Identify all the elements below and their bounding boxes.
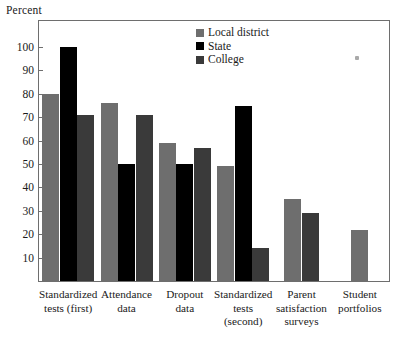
bar-college-group-5 bbox=[302, 213, 319, 281]
x-axis-label-5: Parentsatisfactionsurveys bbox=[272, 288, 330, 329]
x-axis-label-line: (second) bbox=[214, 315, 272, 329]
bar-state-group-3 bbox=[176, 164, 193, 281]
y-axis-tickmark-60 bbox=[38, 141, 43, 142]
legend-swatch-icon bbox=[196, 56, 204, 64]
y-axis-tickmark-50 bbox=[38, 164, 43, 165]
bar-state-group-2 bbox=[118, 164, 135, 281]
x-axis-label-line: Student bbox=[331, 288, 389, 302]
x-axis-label-line: data bbox=[97, 302, 155, 316]
x-axis-label-line: surveys bbox=[272, 315, 330, 329]
bar-local-district-group-2 bbox=[101, 103, 118, 281]
y-axis-tick-20: 20 bbox=[4, 228, 34, 240]
y-axis-tick-labels: 100908070605040302010 bbox=[0, 0, 34, 350]
y-axis-tick-50: 50 bbox=[4, 158, 34, 170]
legend-item-college: College bbox=[196, 53, 269, 67]
legend-item-state: State bbox=[196, 40, 269, 54]
bar-local-district-group-5 bbox=[284, 199, 301, 281]
bar-college-group-3 bbox=[194, 148, 211, 281]
x-axis-label-3: Dropoutdata bbox=[156, 288, 214, 315]
x-axis-category-labels: Standardizedtests (first)AttendancedataD… bbox=[39, 288, 389, 346]
bar-college-group-2 bbox=[136, 115, 153, 281]
legend-label: College bbox=[208, 53, 244, 67]
bar-college-group-1 bbox=[77, 115, 94, 281]
x-axis-label-line: satisfaction bbox=[272, 302, 330, 316]
legend-item-local-district: Local district bbox=[196, 26, 269, 40]
x-axis-label-line: tests bbox=[214, 302, 272, 316]
y-axis-tick-30: 30 bbox=[4, 205, 34, 217]
x-axis-label-4: Standardizedtests(second) bbox=[214, 288, 272, 329]
bar-local-district-group-3 bbox=[159, 143, 176, 281]
y-axis-tick-10: 10 bbox=[4, 252, 34, 264]
bar-college-group-4 bbox=[252, 248, 269, 281]
bar-local-district-group-6 bbox=[351, 230, 368, 281]
bar-local-district-group-1 bbox=[42, 94, 59, 281]
y-axis-tickmark-100 bbox=[38, 47, 43, 48]
y-axis-tickmark-20 bbox=[38, 234, 43, 235]
x-axis-label-6: Studentportfolios bbox=[331, 288, 389, 315]
x-axis-label-line: Parent bbox=[272, 288, 330, 302]
y-axis-tickmark-30 bbox=[38, 211, 43, 212]
y-axis-tickmark-40 bbox=[38, 187, 43, 188]
speck-artifact bbox=[355, 56, 359, 60]
bar-local-district-group-4 bbox=[217, 166, 234, 281]
x-axis-label-1: Standardizedtests (first) bbox=[39, 288, 97, 315]
legend-label: Local district bbox=[208, 26, 269, 40]
y-axis-tick-40: 40 bbox=[4, 181, 34, 193]
x-axis-label-line: Standardized bbox=[214, 288, 272, 302]
x-axis-label-line: portfolios bbox=[331, 302, 389, 316]
x-axis-label-line: tests (first) bbox=[39, 302, 97, 316]
y-axis-tick-100: 100 bbox=[4, 41, 34, 53]
x-axis-label-line: Attendance bbox=[97, 288, 155, 302]
y-axis-tickmark-80 bbox=[38, 94, 43, 95]
y-axis-tick-70: 70 bbox=[4, 111, 34, 123]
x-axis-label-line: Dropout bbox=[156, 288, 214, 302]
bar-state-group-4 bbox=[235, 106, 252, 282]
legend-swatch-icon bbox=[196, 29, 204, 37]
y-axis-tick-60: 60 bbox=[4, 135, 34, 147]
y-axis-tickmark-90 bbox=[38, 70, 43, 71]
legend-label: State bbox=[208, 40, 231, 54]
x-axis-label-line: data bbox=[156, 302, 214, 316]
bar-state-group-1 bbox=[60, 47, 77, 281]
y-axis-tickmark-70 bbox=[38, 117, 43, 118]
bar-chart: Percent 100908070605040302010 Local dist… bbox=[0, 0, 408, 350]
y-axis-tick-90: 90 bbox=[4, 64, 34, 76]
chart-legend: Local districtStateCollege bbox=[196, 26, 269, 67]
legend-swatch-icon bbox=[196, 42, 204, 50]
y-axis-tickmark-10 bbox=[38, 258, 43, 259]
x-axis-label-2: Attendancedata bbox=[97, 288, 155, 315]
y-axis-tick-80: 80 bbox=[4, 88, 34, 100]
x-axis-label-line: Standardized bbox=[39, 288, 97, 302]
